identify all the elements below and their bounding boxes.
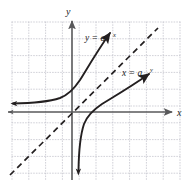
curve-label-y-text: y = a bbox=[84, 33, 105, 43]
x-axis-label: x bbox=[176, 107, 182, 118]
exponential-inverse-figure: y x y = a x x = a y bbox=[0, 0, 192, 186]
curve-label-x-exponent: y bbox=[149, 66, 153, 73]
curve-label-y-exponent: x bbox=[112, 31, 116, 38]
y-axis-label: y bbox=[65, 6, 71, 17]
curve-label-x-text: x = a bbox=[121, 68, 142, 78]
figure-canvas: y x y = a x x = a y bbox=[0, 0, 192, 186]
